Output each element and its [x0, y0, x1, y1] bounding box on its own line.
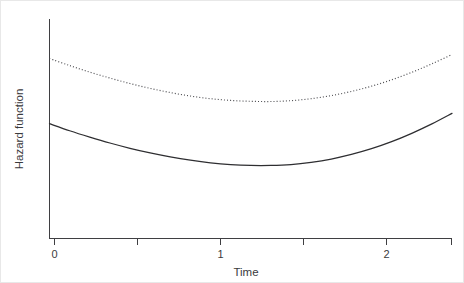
x-tick-label-0: 0 [51, 248, 57, 260]
lower-hazard-curve-solid [50, 113, 453, 165]
hazard-function-chart: 0 1 2 Time Hazard function [0, 0, 464, 283]
y-axis-title: Hazard function [13, 89, 25, 170]
x-axis-title: Time [233, 266, 258, 278]
chart-canvas: 0 1 2 Time Hazard function [1, 1, 464, 283]
upper-hazard-curve-dotted [50, 55, 453, 102]
x-tick-label-2: 2 [383, 248, 389, 260]
x-tick-label-1: 1 [217, 248, 223, 260]
